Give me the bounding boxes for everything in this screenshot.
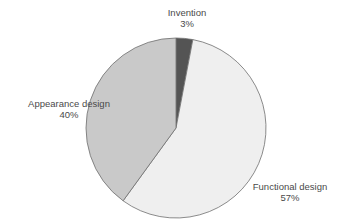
label-functional-design-name: Functional design <box>240 181 340 192</box>
label-invention: Invention 3% <box>162 7 212 29</box>
label-appearance-design: Appearance design 40% <box>14 98 124 120</box>
label-appearance-design-name: Appearance design <box>14 98 124 109</box>
label-functional-design-value: 57% <box>240 192 340 203</box>
label-appearance-design-value: 40% <box>14 109 124 120</box>
label-functional-design: Functional design 57% <box>240 181 340 203</box>
label-invention-name: Invention <box>162 7 212 18</box>
label-invention-value: 3% <box>162 18 212 29</box>
